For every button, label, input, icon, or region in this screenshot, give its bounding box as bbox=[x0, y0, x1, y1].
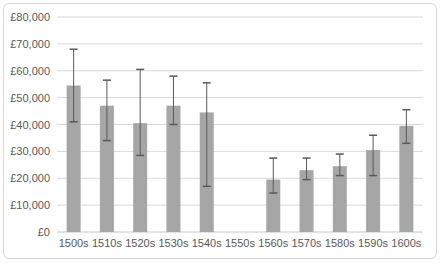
y-tick-label: £50,000 bbox=[10, 92, 50, 104]
x-axis-label: 1520s bbox=[125, 237, 155, 249]
x-axis-label: 1500s bbox=[59, 237, 89, 249]
y-tick-label: £0 bbox=[38, 226, 50, 238]
x-axis-label: 1600s bbox=[391, 237, 421, 249]
y-tick-label: £10,000 bbox=[10, 199, 50, 211]
bar-chart-svg: £0£10,000£20,000£30,000£40,000£50,000£60… bbox=[0, 0, 440, 265]
y-tick-label: £40,000 bbox=[10, 119, 50, 131]
x-axis-label: 1570s bbox=[292, 237, 322, 249]
x-axis-label: 1590s bbox=[358, 237, 388, 249]
y-tick-label: £60,000 bbox=[10, 65, 50, 77]
y-tick-label: £30,000 bbox=[10, 145, 50, 157]
y-tick-label: £70,000 bbox=[10, 38, 50, 50]
x-axis-label: 1560s bbox=[258, 237, 288, 249]
x-axis-label: 1550s bbox=[225, 237, 255, 249]
x-axis-label: 1530s bbox=[158, 237, 188, 249]
x-axis-label: 1540s bbox=[192, 237, 222, 249]
x-axis-label: 1510s bbox=[92, 237, 122, 249]
x-axis-label: 1580s bbox=[325, 237, 355, 249]
y-tick-label: £20,000 bbox=[10, 172, 50, 184]
y-tick-label: £80,000 bbox=[10, 11, 50, 23]
chart-window: £0£10,000£20,000£30,000£40,000£50,000£60… bbox=[0, 0, 440, 265]
